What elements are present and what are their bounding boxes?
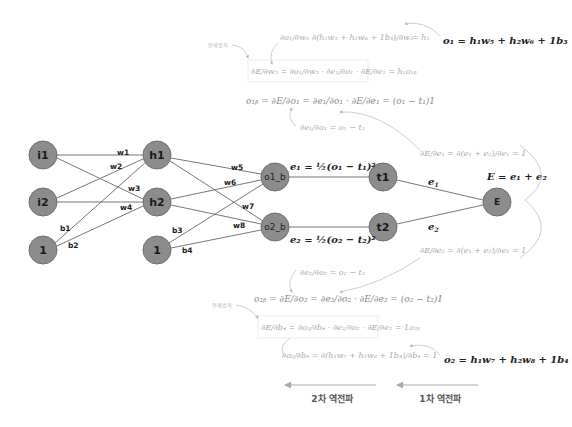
- output-layer: o1_b o2_b: [261, 163, 289, 241]
- hidden-layer: h1 h2 1: [143, 141, 171, 264]
- formula-de1-do1: ∂e₁/∂o₁ = o₁ − t₁: [300, 123, 365, 132]
- label-second-backprop: 2차 역전파: [311, 393, 353, 404]
- equation-e1-definition: e₁ = ½(o₁ − t₁)²: [290, 161, 376, 172]
- diagram-canvas: w1 w2 w3 w4 b1 b2 w5 w6 w7 w8 b3 b4 i1 i…: [0, 0, 572, 427]
- equation-E-definition: E = e₁ + e₂: [486, 171, 547, 182]
- formula-dE-db4: ∂E/∂b₄ = ∂o₂/∂b₄ · ∂e₂/∂o₂ · ∂E/∂e₂ = 1o…: [261, 323, 420, 332]
- label-w5: w5: [231, 163, 243, 172]
- label-w6: w6: [224, 178, 236, 187]
- formula-dE-de1: ∂E/∂e₁ = ∂(e₁ + e₂)/∂e₁ = 1: [420, 149, 526, 158]
- node-o1b-label: o1_b: [264, 172, 286, 182]
- label-b2: b2: [68, 241, 79, 250]
- formula-dE-dw5: ∂E/∂w₅ = ∂o₁/∂w₅ · ∂e₁/∂o₁ · ∂E/∂e₁ = h₁…: [251, 67, 417, 76]
- node-h1-label: h1: [149, 149, 165, 162]
- note-chain-rule-bottom: 연쇄법칙: [212, 302, 232, 309]
- target-layer: t1 t2: [369, 163, 397, 241]
- input-layer: i1 i2 1: [29, 141, 57, 264]
- curve-E-to-derivatives: [520, 145, 541, 258]
- node-t2-label: t2: [377, 221, 390, 234]
- edge-w5: [171, 158, 261, 174]
- backprop-diagram: w1 w2 w3 w4 b1 b2 w5 w6 w7 w8 b3 b4 i1 i…: [0, 0, 572, 427]
- edge-t1-E: [397, 180, 483, 200]
- curve-de2do2-to-o2b: [290, 270, 296, 292]
- node-E-label: E: [494, 197, 500, 207]
- equation-e2-definition: e₂ = ½(o₂ − t₂)²: [290, 234, 376, 245]
- equation-o2-definition: o₂ = h₁w₇ + h₂w₈ + 1b₄: [444, 354, 569, 365]
- node-i1-label: i1: [37, 149, 48, 162]
- edge-label-e2: e2: [428, 221, 439, 233]
- node-h2-label: h2: [149, 196, 165, 209]
- node-bias-input-label: 1: [39, 244, 47, 257]
- curve-do1dw5-to-chain: [271, 43, 278, 64]
- edge-t2-E: [397, 205, 483, 224]
- formula-dE-de2: ∂E/∂e₂ = ∂(e₁ + e₂)/∂e₂ = 1: [420, 246, 526, 255]
- label-w4: w4: [120, 203, 132, 212]
- node-o2b-label: o2_b: [264, 222, 286, 232]
- formula-o2b: o₂ᵦ = ∂E/∂o₂ = ∂e₂/∂o₂ · ∂E/∂e₂ = (o₂ − …: [254, 294, 443, 304]
- note-chain-rule-top: 연쇄법칙: [208, 42, 228, 49]
- formula-de2-do2: ∂e₂/∂o₂ = o₂ − t₂: [300, 268, 365, 277]
- node-i2-label: i2: [37, 196, 48, 209]
- edge-label-e1: e1: [428, 176, 439, 188]
- label-b4: b4: [182, 246, 193, 255]
- label-w2: w2: [110, 162, 122, 171]
- label-first-backprop: 1차 역전파: [419, 393, 461, 404]
- label-b1: b1: [60, 224, 71, 233]
- node-t1-label: t1: [377, 171, 390, 184]
- label-w1: w1: [117, 148, 129, 157]
- formula-do1-dw5-mid: ∂(h₁w₅ + h₂w₆ + 1b₃)/∂w₅: [312, 33, 414, 42]
- formula-o1b: o₁ᵦ = ∂E/∂o₁ = ∂e₁/∂o₁ · ∂E/∂e₁ = (o₁ − …: [246, 96, 435, 106]
- arrow-chain-rule-top: [232, 45, 248, 58]
- edge-w6: [171, 180, 261, 199]
- edge-w7: [170, 161, 263, 221]
- node-bias-hidden-label: 1: [153, 244, 161, 257]
- formula-do1-dw5-rhs: = h₁: [412, 33, 430, 42]
- arrow-chain-rule-bottom: [236, 305, 258, 318]
- backprop-indicators: 2차 역전파 1차 역전파: [285, 385, 478, 404]
- label-w7: w7: [242, 202, 254, 211]
- formula-do2-db4: ∂o₂/∂b₄ = ∂(h₁w₇ + h₂w₈ + 1b₄)/∂b₄ = 1: [282, 351, 437, 360]
- curve-de1do1-to-o1b: [290, 108, 296, 126]
- label-b3: b3: [172, 226, 183, 235]
- error-node-group: E: [483, 188, 511, 216]
- label-w8: w8: [233, 221, 245, 230]
- edge-b3: [169, 184, 263, 243]
- equation-o1-definition: o₁ = h₁w₅ + h₂w₆ + 1b₃: [443, 35, 568, 46]
- formula-do1-dw5: ∂o₁/∂w₅: [280, 33, 310, 42]
- label-w3: w3: [128, 184, 140, 193]
